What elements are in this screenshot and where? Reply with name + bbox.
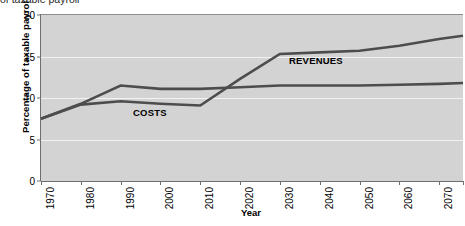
x-tick-label-2060: 2060 <box>403 187 414 209</box>
x-tick-label-1970: 1970 <box>45 187 56 209</box>
x-tick-mark-1990 <box>121 181 122 185</box>
x-tick-label-2040: 2040 <box>324 187 335 209</box>
series-lines <box>41 15 463 181</box>
x-tick-mark-1970 <box>41 181 42 185</box>
chart-figure: Percentage of taxable payroll 05101520 1… <box>0 0 465 226</box>
x-tick-label-2050: 2050 <box>364 187 375 209</box>
plot-area: 05101520 1970198019902000201020202030204… <box>40 14 463 181</box>
x-tick-label-2030: 2030 <box>284 187 295 209</box>
x-tick-mark-1980 <box>81 181 82 185</box>
x-tick-label-1980: 1980 <box>85 187 96 209</box>
series-line-revenues <box>41 83 463 119</box>
x-tick-mark-2050 <box>360 181 361 185</box>
series-label-costs: COSTS <box>133 107 167 118</box>
x-tick-mark-2076 <box>463 181 464 185</box>
x-tick-mark-2060 <box>399 181 400 185</box>
series-label-revenues: REVENUES <box>289 55 343 66</box>
series-line-costs <box>41 36 463 119</box>
x-axis-title: Year <box>40 207 462 218</box>
x-tick-mark-2020 <box>240 181 241 185</box>
x-tick-label-1990: 1990 <box>125 187 136 209</box>
y-axis-title: Percentage of taxable payroll <box>20 0 31 151</box>
x-tick-mark-2010 <box>200 181 201 185</box>
x-tick-label-2070: 2070 <box>443 187 454 209</box>
x-tick-mark-2000 <box>160 181 161 185</box>
x-tick-mark-2070 <box>439 181 440 185</box>
x-tick-label-2020: 2020 <box>244 187 255 209</box>
x-tick-mark-2040 <box>320 181 321 185</box>
y-tick-mark-0 <box>37 181 41 182</box>
x-tick-label-2000: 2000 <box>164 187 175 209</box>
x-tick-mark-2030 <box>280 181 281 185</box>
x-tick-label-2010: 2010 <box>204 187 215 209</box>
